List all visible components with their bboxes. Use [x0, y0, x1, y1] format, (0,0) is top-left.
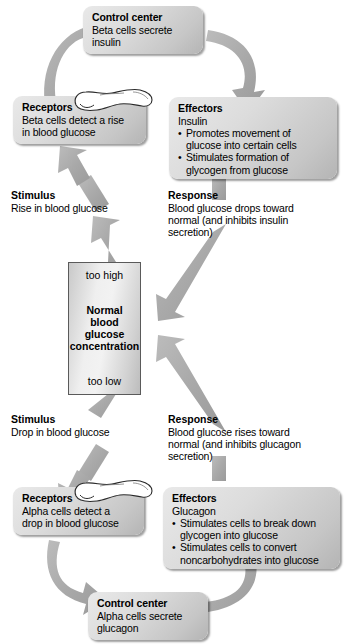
- pancreas-icon-layer: [0, 0, 344, 644]
- pancreas-icon-upper: [75, 89, 152, 110]
- pancreas-icon-lower: [75, 480, 152, 501]
- feedback-diagram: too high Normal blood glucose concentrat…: [0, 0, 344, 644]
